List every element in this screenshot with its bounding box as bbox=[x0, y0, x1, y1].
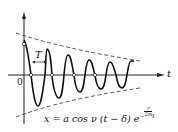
origin-label: 0 bbox=[17, 78, 23, 87]
t-axis-label: t bbox=[167, 69, 171, 79]
y-axis-arrow-icon bbox=[22, 12, 26, 19]
zero-crossing-marker bbox=[72, 73, 75, 76]
equation-lhs: x = a cos ν (t − δ) e bbox=[44, 113, 139, 124]
initial-point-marker bbox=[22, 42, 25, 45]
equation-exp-suffix: t bbox=[152, 112, 154, 119]
period-arrow-left-icon bbox=[32, 61, 35, 64]
equation: x = a cos ν (t − δ) e−r2mt bbox=[44, 106, 155, 124]
period-label: T bbox=[35, 50, 42, 60]
zero-crossing-marker bbox=[93, 73, 96, 76]
zero-crossing-marker bbox=[50, 73, 53, 76]
zero-crossing-marker bbox=[29, 73, 32, 76]
t-axis-arrow-icon bbox=[157, 73, 165, 77]
